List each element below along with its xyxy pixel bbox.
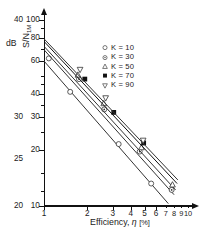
legend-item-1[interactable]: K = 10	[100, 43, 162, 52]
x-axis-title: Efficiency, η [%]	[44, 218, 196, 227]
data-point	[68, 89, 73, 94]
y-axis-db-tick-label: 25	[6, 155, 23, 163]
open-triangle-icon	[100, 62, 111, 71]
plot-area	[44, 12, 196, 206]
y-axis-db-tick-label: 20	[6, 202, 23, 210]
legend-item-label: K = 70	[111, 72, 134, 80]
legend-item-2[interactable]: K = 30	[100, 52, 162, 61]
x-axis-title-prefix: Efficiency,	[90, 217, 132, 227]
filled-square-icon	[100, 71, 111, 80]
chart-figure: 100806040302010 40302520 12345678910 dB …	[0, 0, 206, 238]
open-down-triangle-icon	[100, 81, 111, 90]
open-circle-icon	[100, 43, 111, 52]
chart-legend: K = 10K = 30K = 50K = 70K = 90	[100, 43, 162, 90]
legend-item-3[interactable]: K = 50	[100, 62, 162, 71]
data-point	[82, 77, 87, 82]
y-axis-db-tick-label: 40	[6, 16, 23, 24]
x-axis-title-symbol: η	[132, 217, 137, 227]
y-axis-title: S/N1M	[22, 5, 35, 67]
y-axis-title-main: S/N	[21, 33, 31, 48]
legend-item-5[interactable]: K = 90	[100, 81, 162, 90]
y-axis-db-tick-label: 30	[6, 113, 23, 121]
legend-item-label: K = 50	[111, 63, 134, 71]
data-point	[149, 181, 154, 186]
y-axis-tick-label: 20	[16, 146, 40, 154]
x-axis-title-unit: [%]	[139, 218, 150, 227]
y-axis-tick-label: 40	[16, 90, 40, 98]
x-axis-tick-label: 10	[181, 210, 195, 218]
legend-item-label: K = 10	[111, 44, 134, 52]
dotted-circle-icon	[100, 53, 111, 62]
db-axis-title: dB	[6, 39, 17, 48]
y-axis-title-sub: 1M	[26, 25, 32, 33]
series-canvas	[44, 12, 196, 206]
data-point	[116, 142, 121, 147]
legend-item-4[interactable]: K = 70	[100, 71, 162, 80]
legend-item-label: K = 90	[111, 81, 134, 89]
x-axis-tick-label: 1	[37, 210, 51, 218]
legend-item-label: K = 30	[111, 53, 134, 61]
